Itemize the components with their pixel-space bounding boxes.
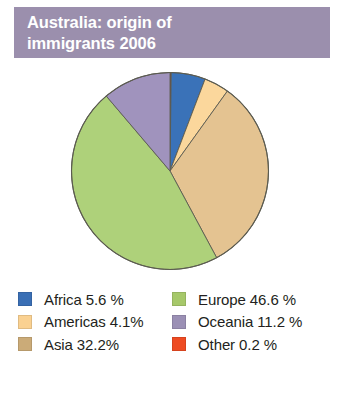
legend-item-europe[interactable]: Europe 46.6 % xyxy=(172,288,302,311)
chart-title-banner: Australia: origin of immigrants 2006 xyxy=(14,7,330,58)
legend-item-other[interactable]: Other 0.2 % xyxy=(172,333,302,356)
legend-item-oceania[interactable]: Oceania 11.2 % xyxy=(172,311,302,334)
legend-label-other: Other 0.2 % xyxy=(198,336,277,353)
legend-label-americas: Americas 4.1% xyxy=(44,313,144,330)
legend-swatch-oceania xyxy=(172,315,186,329)
legend-column-right: Europe 46.6 % Oceania 11.2 % Other 0.2 % xyxy=(172,288,302,356)
legend-swatch-europe xyxy=(172,292,186,306)
legend-item-asia[interactable]: Asia 32.2% xyxy=(18,333,144,356)
legend-swatch-asia xyxy=(18,337,32,351)
legend-swatch-americas xyxy=(18,315,32,329)
legend-swatch-africa xyxy=(18,292,32,306)
legend-label-africa: Africa 5.6 % xyxy=(44,291,124,308)
page-title: Australia: origin of immigrants 2006 xyxy=(27,12,330,54)
pie-chart xyxy=(70,71,270,273)
legend-item-africa[interactable]: Africa 5.6 % xyxy=(18,288,144,311)
legend-column-left: Africa 5.6 % Americas 4.1% Asia 32.2% xyxy=(18,288,144,356)
legend-label-oceania: Oceania 11.2 % xyxy=(198,313,302,330)
legend-swatch-other xyxy=(172,337,186,351)
legend-item-americas[interactable]: Americas 4.1% xyxy=(18,311,144,334)
legend: Africa 5.6 % Americas 4.1% Asia 32.2% Eu… xyxy=(0,288,346,394)
pie-chart-area xyxy=(0,58,346,283)
pie-slice-group xyxy=(71,73,268,270)
legend-label-europe: Europe 46.6 % xyxy=(198,291,296,308)
legend-label-asia: Asia 32.2% xyxy=(44,336,119,353)
